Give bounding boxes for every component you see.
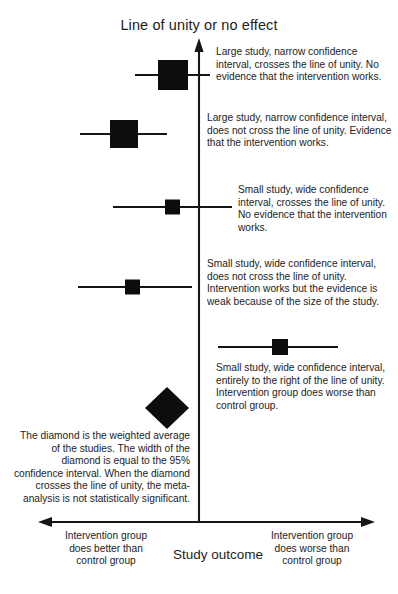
forest-plot-figure: Line of unity or no effect xyxy=(0,0,398,594)
study-3-marker xyxy=(113,200,232,215)
study-1-note: Large study, narrow confidence interval,… xyxy=(216,46,392,84)
study-4-marker xyxy=(78,280,192,295)
study-2-note: Large study, narrow confidence interval,… xyxy=(207,112,395,150)
summary-diamond-note: The diamond is the weighted average of t… xyxy=(10,430,190,506)
study-2-marker xyxy=(80,120,167,148)
study-5-marker xyxy=(218,339,338,355)
study-4-note: Small study, wide confidence interval, d… xyxy=(207,258,395,308)
study-5-note: Small study, wide confidence interval, e… xyxy=(216,362,394,412)
axis-label-right: Intervention group does worse than contr… xyxy=(248,530,376,568)
axis-label-left: Intervention group does better than cont… xyxy=(42,530,170,568)
line-of-unity xyxy=(194,38,203,522)
study-outcome-axis xyxy=(38,517,375,527)
study-3-note: Small study, wide confidence interval, c… xyxy=(238,184,394,234)
summary-diamond xyxy=(145,387,189,429)
